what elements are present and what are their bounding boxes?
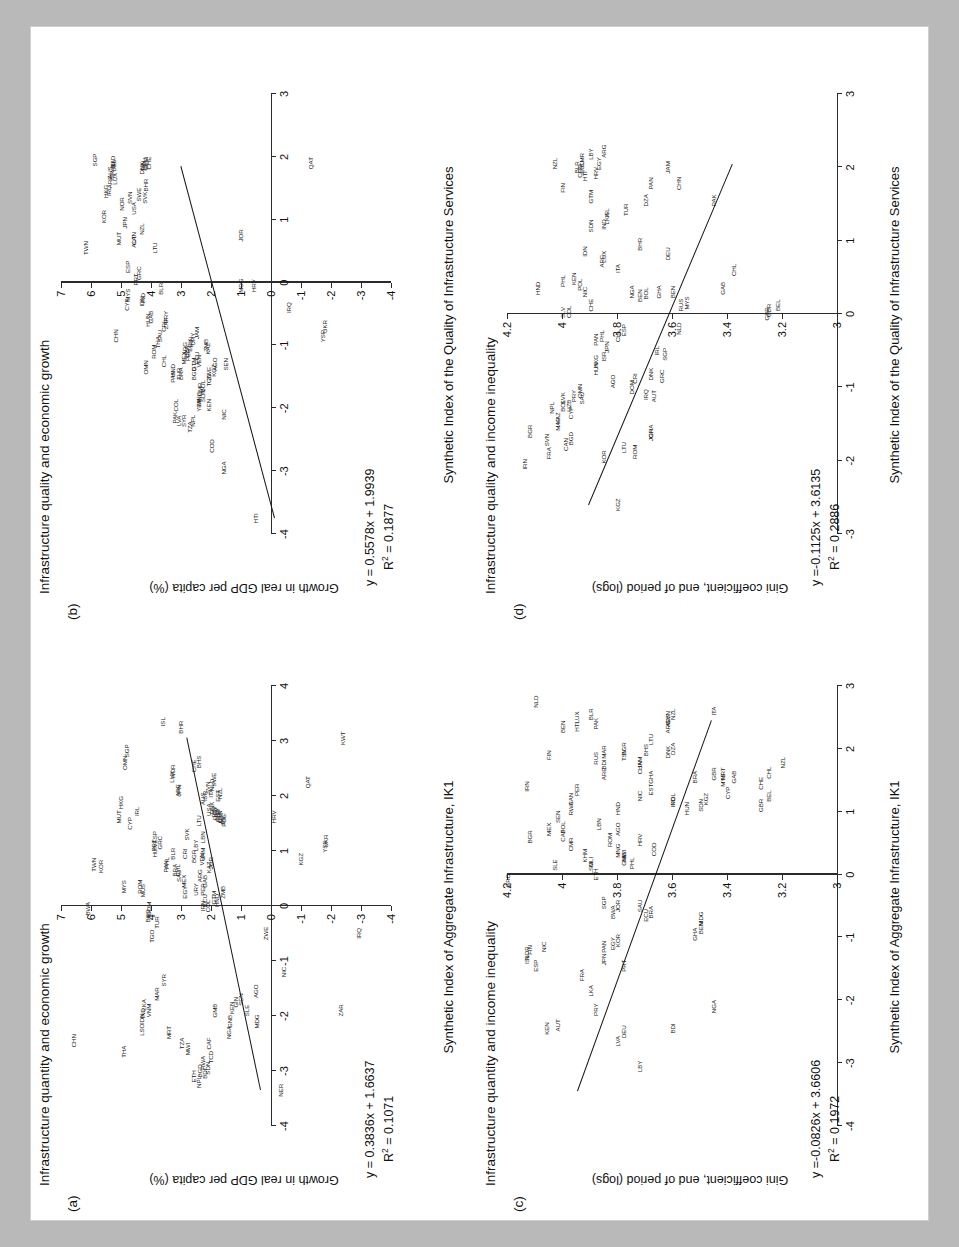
y-tick — [782, 314, 783, 319]
data-point-label: NLD — [531, 696, 538, 708]
x-tick — [271, 960, 276, 961]
data-point-label: KOR — [100, 210, 107, 223]
data-point-label: NIC — [636, 791, 643, 801]
data-point-label: KOR — [600, 450, 607, 463]
data-point-label: CAF — [205, 1037, 212, 1049]
data-point-label: BWA — [83, 902, 90, 916]
data-point-label: GAB — [200, 875, 207, 888]
data-point-label: GHA — [647, 425, 654, 438]
x-tick-label: -1 — [278, 341, 290, 351]
data-point-label: TUR — [622, 204, 629, 216]
data-point-label: BGR — [190, 850, 197, 863]
data-point-label: FRA — [578, 969, 585, 981]
y-tick — [241, 906, 242, 911]
data-point-label: PER — [572, 784, 579, 796]
data-point-label: JOR — [206, 857, 213, 869]
data-point-label: LUX — [572, 712, 579, 724]
y-tick-label: 6 — [85, 291, 97, 317]
panel-d-regression-annotation: y =-0.1125x + 3.6135R2 = 0.2886 — [807, 469, 844, 586]
data-point-label: HND — [534, 282, 541, 295]
x-tick — [271, 740, 276, 741]
x-tick-label: 2 — [278, 793, 290, 799]
data-point-label: BGR — [526, 830, 533, 843]
y-tick — [331, 906, 332, 911]
data-point-label: GAB — [146, 311, 153, 324]
x-tick — [271, 533, 276, 534]
data-point-label: JPN — [600, 954, 607, 965]
data-point-label: DZA — [669, 743, 676, 755]
data-point-label: ITA — [710, 707, 717, 716]
x-tick-label: -2 — [844, 456, 856, 466]
x-tick-label: 0 — [844, 311, 856, 317]
rotated-page-content: (a) Infrastructure quantity and economic… — [31, 27, 928, 1220]
data-point-label: PHL — [627, 857, 634, 869]
x-tick — [271, 1125, 276, 1126]
x-tick-label: 2 — [844, 746, 856, 752]
y-tick-label: -4 — [385, 291, 397, 317]
data-point-label: GHA — [647, 771, 654, 784]
x-tick-label: -2 — [278, 1011, 290, 1021]
y-tick-label: 1 — [235, 291, 247, 317]
data-point-label: HRV — [636, 834, 643, 847]
x-tick-label: -4 — [844, 1121, 856, 1131]
data-point-label: NGA — [220, 461, 227, 474]
data-point-label: BHR — [176, 721, 183, 734]
data-point-label: QAT — [307, 157, 314, 169]
y-tick — [617, 314, 618, 319]
regression-r2: R2 = 0.1071 — [379, 1061, 398, 1178]
data-point-label: GBR — [710, 767, 717, 780]
y-tick-label: 3 — [831, 883, 843, 909]
data-point-label: NER — [277, 1084, 284, 1097]
x-tick — [837, 936, 842, 937]
y-tick-label: 7 — [55, 291, 67, 317]
data-point-label: NZL — [669, 709, 676, 720]
y-tick-label: -1 — [295, 914, 307, 940]
data-point-label: NIC — [539, 942, 546, 952]
data-point-label: CRI — [181, 849, 188, 859]
data-point-label: GBR — [757, 799, 764, 812]
data-point-label: MEX — [545, 823, 552, 836]
y-tick — [617, 875, 618, 880]
panel-b-plot-area: -4-3-2-10123-4-3-2-101234567TWNCHNSGPHKG… — [61, 94, 391, 534]
data-point-label: MWI — [619, 850, 626, 862]
x-tick-label: -2 — [844, 995, 856, 1005]
x-tick-label: 1 — [278, 848, 290, 854]
data-point-label: AUT — [649, 390, 656, 402]
data-point-label: BHR — [142, 179, 149, 192]
y-tick — [121, 283, 122, 288]
data-point-label: NIC — [280, 967, 287, 977]
data-point-label: SYR — [160, 974, 167, 986]
data-point-label: FIN — [545, 750, 552, 760]
data-point-label: KGZ — [296, 853, 303, 865]
data-point-label: ISR — [600, 352, 607, 362]
x-tick-label: 3 — [844, 91, 856, 97]
data-point-label: BEN — [669, 286, 676, 298]
y-tick — [121, 906, 122, 911]
data-point-label: COD — [208, 439, 215, 452]
data-point-label: MAR — [600, 745, 607, 758]
panel-c-y-axis-label: Gini coefficient, end of period (logs) — [540, 1173, 840, 1187]
panel-d: (d) Infrastructure quality and income in… — [483, 40, 913, 620]
data-point-label: SGP — [91, 154, 98, 167]
data-point-label: COL — [564, 306, 571, 318]
data-point-label: SWE — [134, 188, 141, 202]
data-point-label: PRT — [619, 960, 626, 972]
data-point-label: KWT — [338, 732, 345, 745]
data-point-label: NZL — [137, 223, 144, 234]
regression-r2: R2 = 0.1877 — [379, 469, 398, 586]
data-point-label: FRA — [545, 447, 552, 459]
x-tick-label: -4 — [278, 529, 290, 539]
data-point-label: PAN — [600, 941, 607, 953]
data-point-label: SVK — [140, 192, 147, 204]
panel-d-x-axis-label: Synthetic Index of the Quality of Infras… — [887, 110, 902, 540]
panel-b-regression-annotation: y = 0.5578x + 1.9939R2 = 0.1877 — [361, 469, 398, 586]
data-point-label: AGO — [211, 358, 218, 371]
x-tick — [271, 795, 276, 796]
data-point-label: RUS — [592, 752, 599, 765]
data-point-label: NOR — [118, 197, 125, 210]
data-point-label: QAT — [304, 776, 311, 788]
data-point-label: CMR — [567, 838, 574, 852]
data-point-label: GTM — [586, 190, 593, 203]
data-point-label: ZWE — [262, 927, 269, 940]
panel-a-y-axis-label: Growth in real GDP per capita (%) — [94, 1173, 394, 1187]
